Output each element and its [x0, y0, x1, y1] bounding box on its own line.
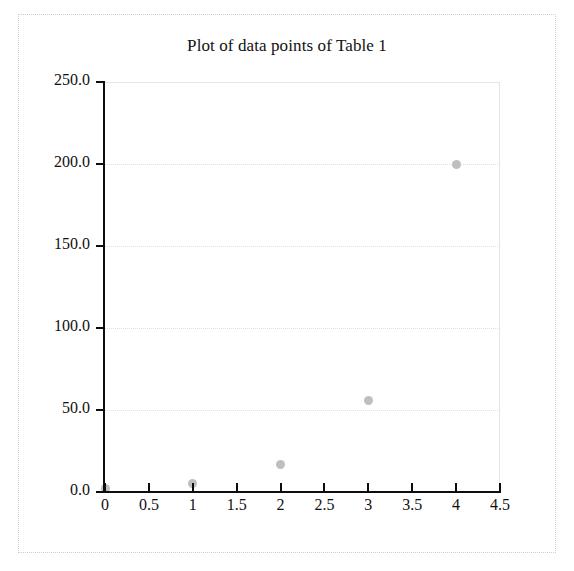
x-axis-tick	[148, 483, 150, 492]
x-axis-tick	[192, 483, 194, 492]
y-axis-tick	[96, 163, 104, 165]
y-axis-tick	[96, 81, 104, 83]
x-axis-tick	[455, 483, 457, 492]
x-axis-tick	[323, 483, 325, 492]
x-axis-line	[104, 491, 501, 493]
x-axis-tick	[367, 483, 369, 492]
y-axis-tick-label: 250.0	[28, 71, 90, 89]
y-axis-line	[103, 81, 105, 493]
y-axis-tick-label: 50.0	[28, 399, 90, 417]
gridline-y	[105, 82, 500, 83]
y-axis-tick	[96, 491, 104, 493]
x-axis-tick	[104, 483, 106, 492]
y-axis-tick	[96, 245, 104, 247]
x-axis-tick	[499, 483, 501, 492]
gridline-y	[105, 410, 500, 411]
data-point	[364, 396, 373, 405]
x-axis-tick-label: 4.5	[470, 496, 530, 514]
x-axis-tick	[280, 483, 282, 492]
y-axis-tick-label: 200.0	[28, 153, 90, 171]
y-axis-tick	[96, 409, 104, 411]
data-point	[276, 460, 285, 469]
x-axis-tick	[236, 483, 238, 492]
gridline-y	[105, 246, 500, 247]
gridline-y	[105, 328, 500, 329]
gridline-y	[105, 164, 500, 165]
chart-title: Plot of data points of Table 1	[0, 36, 574, 56]
data-point	[452, 160, 461, 169]
y-axis-tick-label: 100.0	[28, 317, 90, 335]
y-axis-tick-label: 150.0	[28, 235, 90, 253]
y-axis-tick	[96, 327, 104, 329]
plot-area	[105, 82, 500, 492]
x-axis-tick	[411, 483, 413, 492]
